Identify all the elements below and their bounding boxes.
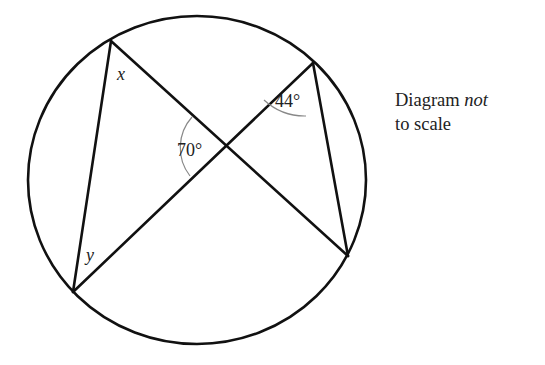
label-x: x: [116, 64, 125, 84]
note-line-1-emphasis: not: [464, 90, 488, 110]
not-to-scale-note: Diagram not to scale: [395, 88, 488, 136]
note-line-1-prefix: Diagram: [395, 90, 464, 110]
circle-diagram: x y 70° 44°: [0, 0, 545, 365]
chord-top-right-to-bottom-right: [313, 63, 348, 256]
circle: [28, 16, 366, 344]
note-line-1: Diagram not: [395, 88, 488, 112]
label-y: y: [84, 245, 94, 265]
label-angle-44: 44°: [275, 91, 300, 111]
label-angle-70: 70°: [177, 140, 202, 160]
chord-top-left-to-bottom-right: [111, 41, 348, 256]
note-line-2: to scale: [395, 112, 488, 136]
